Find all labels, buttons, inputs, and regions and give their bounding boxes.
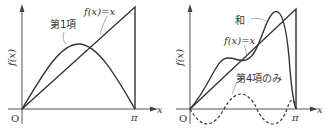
right-pi-label: π [291,112,299,123]
left-fx-line [22,7,135,109]
left-term1-label: 第1項 [50,18,76,30]
left-figure: f(x)=x 第1項 f(x) x O π [6,4,163,124]
right-figure: 和 f(x)=x 第4項のみ f(x) x O π [174,4,323,124]
left-first-term-curve [22,44,135,109]
left-term1-leader [63,32,66,44]
right-origin-label: O [179,113,187,124]
right-y-label: f(x) [174,49,185,67]
right-sum-leader [251,18,268,22]
right-y-axis-arrow-icon [188,4,193,12]
left-x-label: x [157,104,163,115]
left-y-axis-arrow-icon [20,4,25,12]
fourier-series-diagram: f(x)=x 第1項 f(x) x O π 和 f(x)=x 第4項のみ f(x… [0,0,326,134]
left-fx-leader [100,16,107,34]
right-sum-label: 和 [235,15,245,26]
left-pi-label: π [130,112,138,123]
right-fx-label: f(x)=x [223,35,256,46]
right-x-label: x [317,104,323,115]
right-term4-label: 第4項のみ [236,72,282,84]
left-y-label: f(x) [6,49,17,67]
left-fx-label: f(x)=x [83,6,116,17]
left-origin-label: O [11,113,19,124]
